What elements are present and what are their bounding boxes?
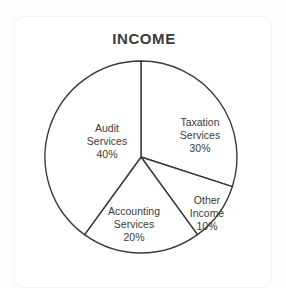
pie-label-taxation-services: Taxation Services 30% <box>180 116 220 155</box>
pie-label-line: Audit <box>87 122 127 135</box>
pie-label-value: 40% <box>87 148 127 161</box>
pie-label-line: Other <box>190 194 224 207</box>
pie-label-line: Accounting <box>108 205 160 218</box>
pie-label-value: 10% <box>190 220 224 233</box>
chart-card: INCOME Taxation Services 30% Other Incom… <box>14 16 272 288</box>
pie-label-value: 30% <box>180 142 220 155</box>
pie-label-line: Services <box>180 129 220 142</box>
pie-chart: Taxation Services 30% Other Income 10% A… <box>15 17 272 288</box>
pie-label-value: 20% <box>108 231 160 244</box>
pie-label-line: Services <box>108 218 160 231</box>
pie-label-accounting-services: Accounting Services 20% <box>108 205 160 244</box>
pie-label-line: Taxation <box>180 116 220 129</box>
pie-label-line: Income <box>190 207 224 220</box>
pie-label-audit-services: Audit Services 40% <box>87 122 127 161</box>
pie-label-other-income: Other Income 10% <box>190 194 224 233</box>
pie-chart-svg <box>15 17 272 288</box>
pie-label-line: Services <box>87 135 127 148</box>
